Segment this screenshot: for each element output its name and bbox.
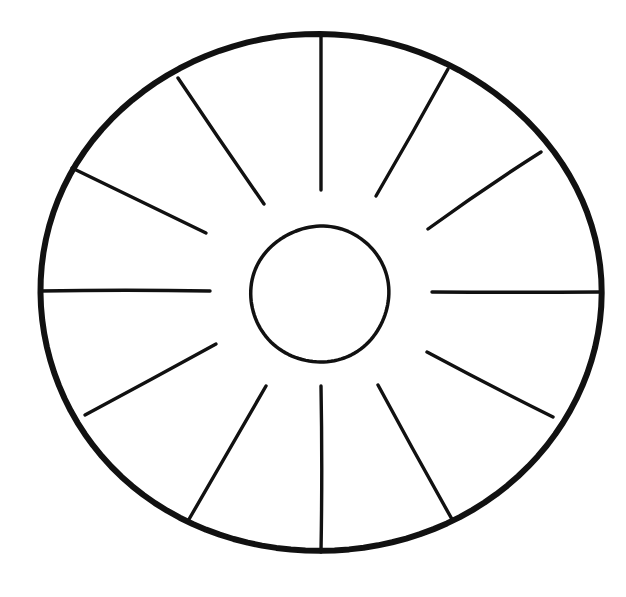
inner-circle <box>251 226 389 362</box>
spoke-060 <box>428 152 541 229</box>
spoke-210 <box>188 386 266 521</box>
spoke-300 <box>72 168 206 233</box>
wheel-diagram <box>0 0 626 597</box>
diagram-canvas <box>0 0 626 597</box>
spoke-150 <box>378 385 453 521</box>
spoke-270 <box>40 290 210 291</box>
spoke-180 <box>321 386 322 552</box>
spoke-030 <box>376 69 448 196</box>
spoke-330 <box>178 78 264 204</box>
spoke-240 <box>85 344 216 415</box>
spoke-120 <box>427 352 553 417</box>
